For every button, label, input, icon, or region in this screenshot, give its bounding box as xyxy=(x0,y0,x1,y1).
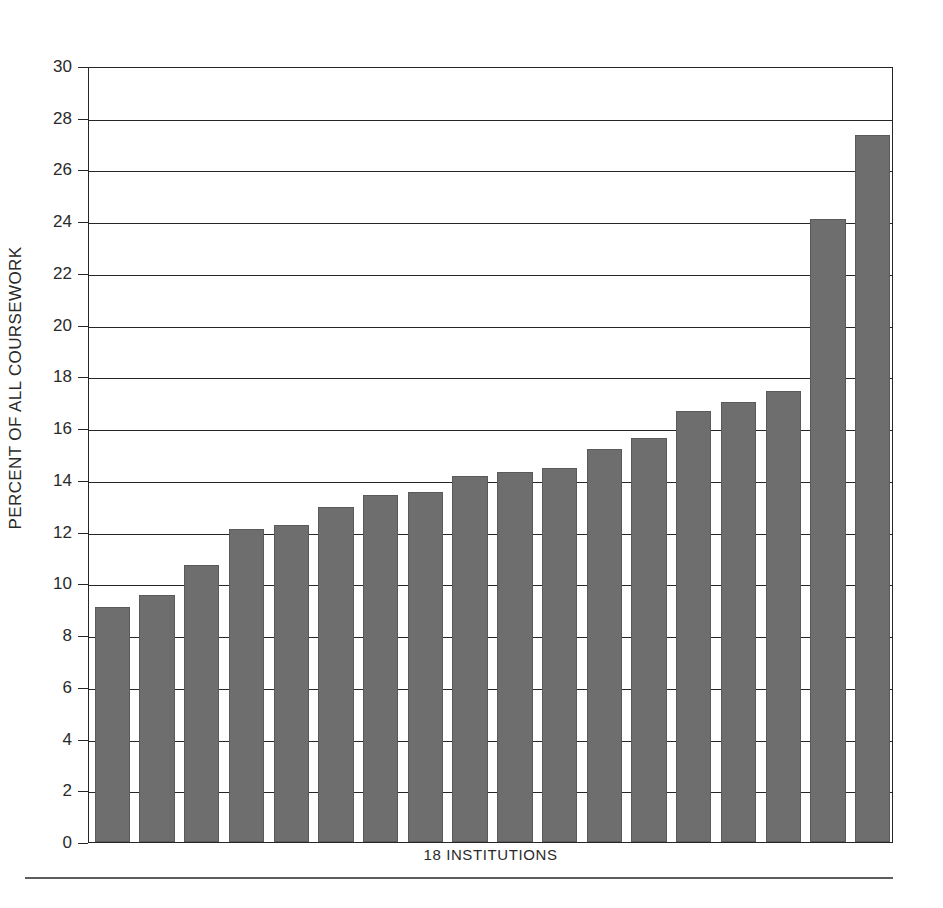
bar-group xyxy=(89,68,892,842)
y-axis-tick-label: 20 xyxy=(38,317,72,334)
y-axis-tick-label: 22 xyxy=(38,265,72,282)
bar xyxy=(810,219,845,842)
bar xyxy=(497,472,532,842)
bar xyxy=(766,391,801,842)
bar xyxy=(721,402,756,842)
y-axis-tick-label: 0 xyxy=(38,834,72,851)
y-axis-tick-label: 28 xyxy=(38,110,72,127)
plot-area xyxy=(88,67,893,843)
bar xyxy=(408,492,443,842)
y-axis-tick-label: 24 xyxy=(38,213,72,230)
y-axis-tick-label: 10 xyxy=(38,575,72,592)
y-axis-tick xyxy=(78,740,88,741)
y-axis-tick xyxy=(78,429,88,430)
y-axis-title-text: PERCENT OF ALL COURSEWORK xyxy=(5,247,25,530)
y-axis-tick xyxy=(78,326,88,327)
y-axis-tick xyxy=(78,222,88,223)
bar xyxy=(95,607,130,842)
y-axis-tick-label: 16 xyxy=(38,420,72,437)
y-axis-tick-label: 26 xyxy=(38,161,72,178)
y-axis-tick xyxy=(78,636,88,637)
footer-divider xyxy=(25,877,893,879)
bar xyxy=(184,565,219,842)
y-axis-tick xyxy=(78,119,88,120)
y-axis-tick-label: 4 xyxy=(38,731,72,748)
bar xyxy=(229,529,264,842)
bar xyxy=(587,449,622,842)
bar xyxy=(363,495,398,842)
y-axis-tick-label: 6 xyxy=(38,679,72,696)
y-axis-tick xyxy=(78,843,88,844)
y-axis-tick xyxy=(78,584,88,585)
y-axis-title: PERCENT OF ALL COURSEWORK xyxy=(0,0,30,776)
bar xyxy=(318,507,353,842)
x-axis-title: 18 INSTITUTIONS xyxy=(88,846,893,863)
y-axis-tick-label: 12 xyxy=(38,524,72,541)
y-axis-tick xyxy=(78,377,88,378)
y-axis-tick xyxy=(78,170,88,171)
bar xyxy=(676,411,711,842)
y-axis-tick-label: 8 xyxy=(38,627,72,644)
y-axis-tick-label: 18 xyxy=(38,368,72,385)
y-axis-tick-label: 30 xyxy=(38,58,72,75)
bar xyxy=(855,135,890,842)
y-axis-tick-label: 2 xyxy=(38,782,72,799)
y-axis-tick xyxy=(78,481,88,482)
y-axis-tick xyxy=(78,791,88,792)
bar xyxy=(274,525,309,842)
bar xyxy=(452,476,487,842)
bar xyxy=(139,595,174,842)
y-axis-tick xyxy=(78,688,88,689)
y-axis-tick-label: 14 xyxy=(38,472,72,489)
bar xyxy=(631,438,666,842)
y-axis-tick xyxy=(78,533,88,534)
bar-chart-figure: PERCENT OF ALL COURSEWORK 02468101214161… xyxy=(0,0,943,908)
bar xyxy=(542,468,577,842)
y-axis-tick xyxy=(78,67,88,68)
y-axis-tick xyxy=(78,274,88,275)
